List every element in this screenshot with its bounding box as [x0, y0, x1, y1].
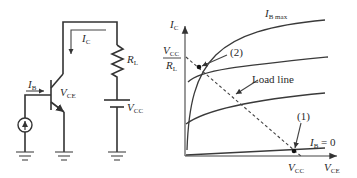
y-axis-label: IC — [169, 18, 179, 32]
svg-text:RL: RL — [165, 59, 177, 73]
curve-ib-zero-label: IB = 0 — [309, 136, 336, 150]
curve-ib-max-label: IB max — [264, 7, 288, 21]
supply-voltage-label: VCC — [127, 101, 143, 115]
point-1-label: (1) — [297, 110, 310, 123]
curve-ib-zero — [186, 148, 325, 155]
load-line-label: Load line — [252, 73, 294, 85]
load-resistor — [112, 45, 123, 100]
ground-icon — [16, 152, 34, 160]
point-2-label: (2) — [230, 46, 243, 59]
ground-icon — [55, 152, 73, 160]
transistor-load-line-diagram: IC IB VCE RL VCC IC VCC RL IB max (2) — [0, 0, 357, 178]
svg-text:VCC: VCC — [163, 44, 179, 58]
circuit-schematic: IC IB VCE RL VCC — [16, 22, 143, 160]
resistor-label: RL — [126, 53, 138, 67]
ground-icon — [108, 152, 126, 160]
x-intercept-label: VCC — [288, 161, 304, 175]
output-characteristics-graph: IC VCC RL IB max (2) Load line (1) IB = … — [163, 7, 340, 175]
base-current-label: IB — [27, 78, 37, 92]
x-axis-label: VCE — [324, 161, 340, 175]
point-1-pointer — [295, 123, 301, 148]
current-source-icon — [18, 118, 32, 132]
curve-ib-max — [187, 20, 325, 150]
base-wire — [25, 95, 51, 118]
operating-point-2 — [197, 65, 202, 70]
operating-point-1 — [292, 149, 297, 154]
y-intercept-label: VCC RL — [163, 44, 181, 73]
collector-current-label: IC — [81, 32, 91, 46]
load-line — [186, 57, 302, 157]
vce-label: VCE — [60, 86, 76, 100]
